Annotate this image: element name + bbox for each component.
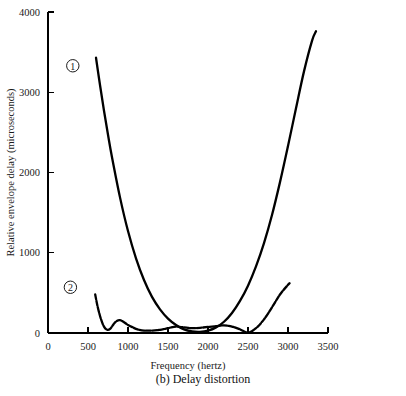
curve-marker-label-2: 2 [68,282,73,293]
axes-group [48,12,328,333]
x-tick-label: 2500 [238,341,259,352]
curve-series-1 [96,31,316,332]
x-tick-label: 3000 [278,341,299,352]
x-tick-label: 0 [45,341,50,352]
y-tick-label: 3000 [19,87,40,98]
y-tick-label: 1000 [19,247,40,258]
x-tick-label: 3500 [318,341,339,352]
y-axis-title: Relative envelope delay (microseconds) [5,88,17,257]
figure-caption: (b) Delay distortion [156,372,251,386]
curve-marker-label-1: 1 [70,61,75,72]
delay-distortion-figure: 01000200030004000 0500100015002000250030… [0,0,406,396]
x-axis-title: Frequency (hertz) [151,360,226,372]
x-tick-label: 1000 [118,341,139,352]
y-tick-label: 4000 [19,7,40,18]
y-axis-ticks: 01000200030004000 [19,7,54,339]
curve-series-2 [95,283,289,332]
chart-canvas: 01000200030004000 0500100015002000250030… [0,0,406,396]
x-tick-label: 500 [80,341,96,352]
series-curves [95,31,316,332]
series-markers: 12 [64,60,79,294]
y-tick-label: 2000 [19,167,40,178]
x-tick-label: 1500 [158,341,179,352]
y-tick-label: 0 [35,328,40,339]
x-tick-label: 2000 [198,341,219,352]
